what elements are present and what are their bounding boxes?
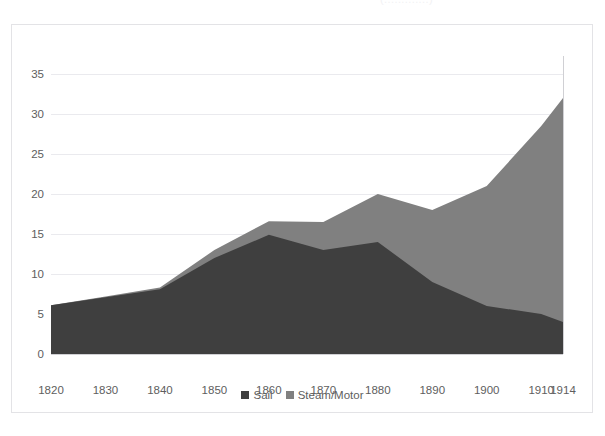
legend-label: Sail [253, 389, 272, 401]
stacked-area-plot [12, 25, 592, 412]
legend-label: Steam/Motor [298, 389, 364, 401]
y-axis-tick-35: 35 [18, 68, 44, 80]
y-axis-tick-5: 5 [18, 308, 44, 320]
chart-plot-frame: 05101520253035 1820183018401850186018701… [11, 24, 593, 413]
y-axis-tick-10: 10 [18, 268, 44, 280]
steam-legend[interactable]: Steam/Motor [286, 389, 364, 401]
y-axis-tick-25: 25 [18, 148, 44, 160]
legend-swatch-icon [241, 391, 249, 399]
y-axis-tick-0: 0 [18, 348, 44, 360]
clipped-title-text: (.............) [380, 0, 605, 7]
y-axis-tick-20: 20 [18, 188, 44, 200]
y-axis-tick-30: 30 [18, 108, 44, 120]
chart-figure: (.............) 05101520253035 182018301… [0, 0, 605, 436]
legend-swatch-icon [286, 391, 294, 399]
sail-legend[interactable]: Sail [241, 389, 272, 401]
chart-legend: SailSteam/Motor [0, 389, 605, 401]
y-axis-tick-15: 15 [18, 228, 44, 240]
